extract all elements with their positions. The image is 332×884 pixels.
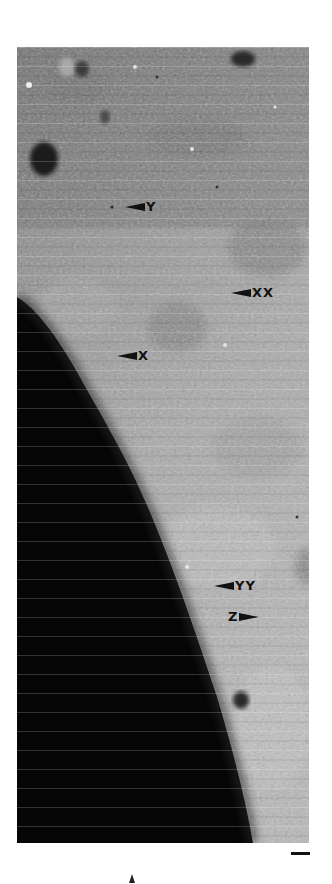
annotation-label: Z xyxy=(228,610,238,623)
annotation-y: Y xyxy=(125,200,156,213)
annotation-label: X xyxy=(138,349,149,362)
annotation-label: Y xyxy=(146,200,156,213)
arrow-left-icon xyxy=(117,352,137,360)
lunar-surface-photo xyxy=(17,47,309,843)
north-arrow-icon xyxy=(129,874,135,883)
annotation-xx: XX xyxy=(231,286,274,299)
scale-bar xyxy=(291,852,310,855)
annotation-z: Z xyxy=(228,610,259,623)
arrow-right-icon xyxy=(239,613,259,621)
arrow-left-icon xyxy=(125,203,145,211)
annotation-x: X xyxy=(117,349,149,362)
annotation-label: YY xyxy=(235,579,256,592)
annotation-label: XX xyxy=(252,286,274,299)
arrow-left-icon xyxy=(214,582,234,590)
photo-render xyxy=(17,47,309,843)
annotation-yy: YY xyxy=(214,579,256,592)
arrow-left-icon xyxy=(231,289,251,297)
